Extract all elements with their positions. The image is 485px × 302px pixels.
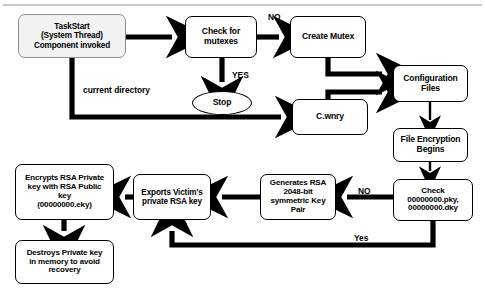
connector-cwnry-to-configfiles: [328, 92, 382, 99]
file-encryption-begins-node[interactable]: File Encryption Begins: [393, 128, 468, 162]
file-encryption-begins-label: File Encryption Begins: [394, 135, 467, 154]
destroys-private-key-label: Destroys Private key in memory to avoid …: [16, 249, 113, 276]
connector-createmutex-to-configfiles: [328, 58, 382, 74]
edge-label-yes-keys: Yes: [354, 233, 368, 243]
task-start-node[interactable]: TaskStart (System Thread) Component invo…: [18, 14, 126, 58]
check-key-files-node[interactable]: Check 00000000.pky, 00000000.dky: [393, 179, 473, 221]
top-divider-rule: [3, 4, 482, 6]
generates-rsa-key-pair-node[interactable]: Generates RSA 2048-bit symmetric Key Pai…: [260, 174, 336, 220]
create-mutex-node[interactable]: Create Mutex: [290, 16, 366, 58]
flowchart-canvas: TaskStart (System Thread) Component invo…: [0, 0, 485, 302]
edge-label-current-directory: current directory: [83, 85, 150, 95]
edge-label-no-keys: NO: [358, 186, 371, 196]
exports-victim-private-key-node[interactable]: Exports Victim's private RSA key: [133, 174, 211, 220]
c-wnry-label: C.wnry: [293, 112, 367, 122]
destroys-private-key-node[interactable]: Destroys Private key in memory to avoid …: [15, 240, 114, 284]
stop-label: Stop: [193, 98, 251, 108]
connector-checkkeys-yes-to-exportsvictim: [172, 221, 433, 245]
encrypts-rsa-private-key-node[interactable]: Encrypts RSA Private key with RSA Public…: [15, 164, 114, 220]
exports-victim-private-key-label: Exports Victim's private RSA key: [134, 188, 210, 206]
configuration-files-node[interactable]: Configuration Files: [393, 65, 468, 102]
encrypts-rsa-private-key-label: Encrypts RSA Private key with RSA Public…: [16, 174, 113, 210]
stop-terminator-node[interactable]: Stop: [192, 91, 252, 115]
edge-label-yes-mutex: YES: [232, 70, 249, 80]
generates-rsa-key-pair-label: Generates RSA 2048-bit symmetric Key Pai…: [261, 179, 335, 215]
configuration-files-label: Configuration Files: [394, 74, 467, 93]
task-start-label: TaskStart (System Thread) Component invo…: [19, 22, 125, 50]
create-mutex-label: Create Mutex: [291, 32, 365, 42]
c-wnry-node[interactable]: C.wnry: [292, 99, 368, 135]
edge-label-no-mutex: NO: [268, 12, 281, 22]
check-for-mutexes-node[interactable]: Check for mutexes: [185, 16, 257, 58]
check-key-files-label: Check 00000000.pky, 00000000.dky: [394, 187, 472, 214]
check-for-mutexes-label: Check for mutexes: [186, 27, 256, 46]
